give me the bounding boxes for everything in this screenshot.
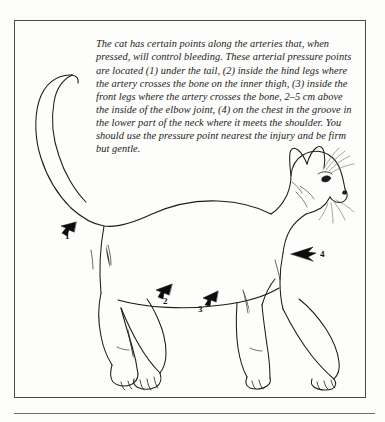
pressure-point-label-2: 2 bbox=[163, 297, 168, 306]
figure-caption: The cat has certain points along the art… bbox=[96, 37, 354, 155]
pressure-point-label-4: 4 bbox=[320, 250, 325, 259]
figure-page: 1 2 3 4 The cat has certain points along… bbox=[0, 0, 385, 422]
pressure-point-label-3: 3 bbox=[198, 305, 203, 314]
pressure-point-label-1: 1 bbox=[65, 232, 70, 241]
section-divider bbox=[14, 413, 375, 414]
